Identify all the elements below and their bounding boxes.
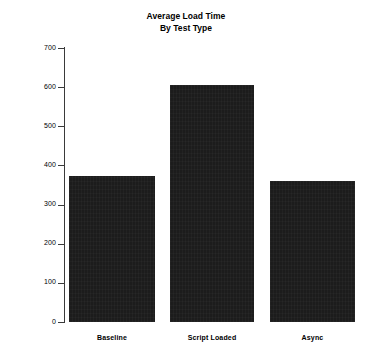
- y-axis-tick-label: 300: [16, 200, 56, 207]
- x-axis-category-label: Async: [270, 334, 355, 341]
- y-axis-tick-label: 400: [16, 161, 56, 168]
- y-axis-tick-label: 700: [16, 44, 56, 51]
- y-axis-tick: [58, 244, 64, 245]
- y-axis-tick: [58, 322, 64, 323]
- chart-title-line-1: Average Load Time: [0, 11, 372, 23]
- bar: [270, 181, 355, 322]
- y-axis-tick: [58, 126, 64, 127]
- bar-chart: Average Load Time By Test Type milliseco…: [0, 0, 372, 363]
- y-axis-tick-label: 200: [16, 239, 56, 246]
- y-axis-tick-label: 100: [16, 278, 56, 285]
- bar: [170, 85, 254, 322]
- x-axis-category-label: Baseline: [69, 334, 155, 341]
- y-axis-line: [64, 47, 65, 323]
- y-axis-tick-label: 500: [16, 122, 56, 129]
- x-axis-category-label: Script Loaded: [170, 334, 254, 341]
- y-axis-tick: [58, 87, 64, 88]
- chart-title-line-2: By Test Type: [0, 23, 372, 35]
- y-axis-tick: [58, 165, 64, 166]
- y-axis-tick-label: 0: [16, 318, 56, 325]
- bar: [69, 176, 155, 322]
- y-axis-tick: [58, 205, 64, 206]
- chart-title: Average Load Time By Test Type: [0, 11, 372, 34]
- y-axis-tick: [58, 283, 64, 284]
- y-axis-tick-label: 600: [16, 83, 56, 90]
- y-axis-tick: [58, 48, 64, 49]
